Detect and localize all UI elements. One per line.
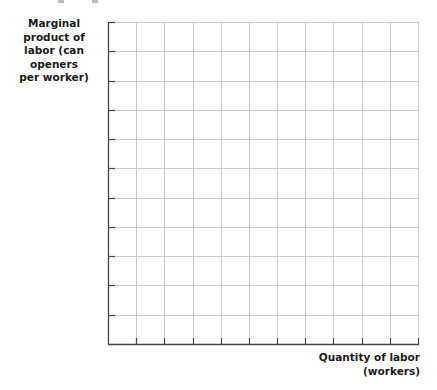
- x-axis-label-line: (workers): [280, 364, 420, 378]
- chart-plot-area: [0, 0, 437, 390]
- x-axis-label-line: Quantity of labor: [280, 350, 420, 364]
- grid-lines: [108, 22, 419, 344]
- axes: [108, 22, 419, 345]
- x-axis-label: Quantity of labor (workers): [280, 350, 420, 378]
